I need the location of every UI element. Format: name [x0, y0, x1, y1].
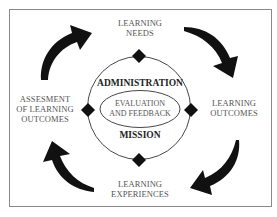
administration-label: ADMINISTRATION: [94, 78, 186, 89]
node-assessment-line-2: OF LEARNING: [12, 104, 78, 114]
node-assessment-line-1: ASSESMENT: [12, 94, 78, 104]
node-learning-needs-line-1: LEARNING: [110, 18, 170, 28]
diamond-left-icon: [81, 103, 95, 117]
node-learning-needs: LEARNING NEEDS: [110, 18, 170, 38]
node-learning-experiences-line-1: LEARNING: [100, 179, 180, 189]
mission-label: MISSION: [110, 130, 170, 141]
evaluation-line-1: EVALUATION: [100, 99, 180, 109]
node-assessment-line-3: OUTCOMES: [12, 114, 78, 124]
diamond-right-icon: [184, 103, 198, 117]
node-learning-experiences: LEARNING EXPERIENCES: [100, 179, 180, 199]
arrow-needs-to-outcomes-icon: [184, 27, 238, 78]
diamond-top-icon: [132, 49, 146, 63]
node-learning-needs-line-2: NEEDS: [110, 28, 170, 38]
node-learning-experiences-line-2: EXPERIENCES: [100, 189, 180, 199]
evaluation-and-feedback-label: EVALUATION AND FEEDBACK: [100, 99, 180, 119]
node-learning-outcomes-line-2: OUTCOMES: [200, 108, 268, 118]
node-assessment-of-learning-outcomes: ASSESMENT OF LEARNING OUTCOMES: [12, 94, 78, 124]
node-learning-outcomes-line-1: LEARNING: [200, 98, 268, 108]
diamond-bottom-icon: [132, 153, 146, 167]
arrow-assessment-to-needs-icon: [41, 25, 92, 80]
arrow-outcomes-to-experiences-icon: [190, 140, 239, 195]
evaluation-line-2: AND FEEDBACK: [100, 109, 180, 119]
node-learning-outcomes: LEARNING OUTCOMES: [200, 98, 268, 118]
arrow-experiences-to-assessment-icon: [43, 141, 94, 192]
